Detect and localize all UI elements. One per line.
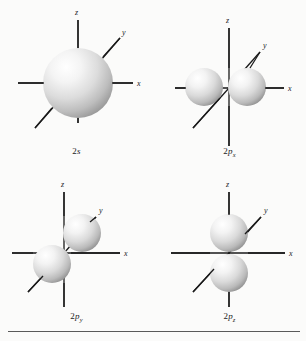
orbital-lobe-negative-y bbox=[33, 245, 71, 283]
orbital-lobe-negative-z bbox=[210, 254, 248, 292]
orbital-panel-2s: z y x 2s bbox=[0, 0, 153, 170]
orbital-diagram-2pz: z y x bbox=[153, 170, 306, 330]
y-axis-upper-front bbox=[103, 38, 120, 57]
y-axis-upper-front bbox=[245, 217, 261, 234]
axis-label-y: y bbox=[262, 41, 267, 50]
figure-bottom-rule bbox=[8, 331, 300, 332]
orbital-caption-2pz: 2pz bbox=[153, 311, 306, 323]
y-axis-upper-front bbox=[250, 52, 260, 68]
caption-symbol: s bbox=[77, 146, 81, 156]
axis-label-x: x bbox=[123, 249, 128, 258]
orbital-lobe-positive-x bbox=[228, 68, 266, 106]
orbital-lobe-positive-y bbox=[63, 214, 101, 252]
axis-label-z: z bbox=[225, 16, 230, 25]
y-axis-lower-front bbox=[28, 276, 43, 292]
caption-subscript: z bbox=[233, 316, 236, 323]
axis-label-z: z bbox=[60, 180, 65, 189]
axis-label-x: x bbox=[287, 84, 292, 93]
axis-lines-2py bbox=[12, 192, 120, 307]
caption-subscript: x bbox=[233, 151, 236, 158]
orbital-caption-2py: 2py bbox=[0, 311, 153, 323]
orbital-caption-2px: 2px bbox=[153, 146, 306, 158]
axis-label-z: z bbox=[225, 180, 230, 189]
caption-subscript: y bbox=[80, 316, 83, 323]
y-axis-lower-front bbox=[193, 269, 214, 292]
orbital-lobe bbox=[43, 48, 113, 118]
orbital-diagram-2px: z y x bbox=[153, 0, 306, 170]
y-axis-lower-front bbox=[35, 108, 52, 128]
axis-label-y: y bbox=[263, 206, 268, 215]
orbital-diagram-2py: z y x bbox=[0, 170, 153, 330]
orbital-panel-2px: z y x 2px bbox=[153, 0, 306, 170]
orbital-figure: z y x 2s bbox=[0, 0, 306, 341]
orbital-panel-2py: z y x 2py bbox=[0, 170, 153, 330]
axis-label-y: y bbox=[98, 206, 103, 215]
orbital-lobe-positive-z bbox=[210, 214, 248, 252]
axis-label-x: x bbox=[136, 79, 141, 88]
axis-label-x: x bbox=[288, 249, 293, 258]
axis-label-z: z bbox=[74, 8, 79, 17]
orbital-diagram-2s: z y x bbox=[0, 0, 153, 170]
axis-label-y: y bbox=[121, 28, 126, 37]
orbital-panel-2pz: z y x 2pz bbox=[153, 170, 306, 330]
orbital-caption-2s: 2s bbox=[0, 146, 153, 156]
